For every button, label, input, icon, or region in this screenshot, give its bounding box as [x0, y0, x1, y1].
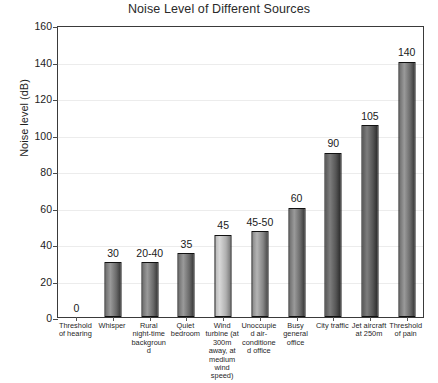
y-axis-tick-label: 0	[22, 313, 52, 324]
bar[interactable]	[361, 125, 378, 317]
bar[interactable]	[215, 235, 232, 317]
bar[interactable]	[288, 208, 305, 318]
bar-slot: 30	[95, 27, 132, 317]
bar-value-label: 140	[398, 47, 416, 58]
bar-value-label: 30	[107, 248, 119, 259]
chart-title: Noise Level of Different Sources	[0, 2, 438, 16]
bar[interactable]	[398, 62, 415, 318]
y-axis-tick-labels: 020406080100120140160	[18, 26, 52, 318]
y-axis-tick-label: 40	[22, 240, 52, 251]
y-axis-tick-label: 80	[22, 167, 52, 178]
bar-value-label: 90	[327, 138, 339, 149]
y-axis-tick-label: 120	[22, 94, 52, 105]
x-axis-category-label: City traffic	[314, 322, 351, 330]
bar-slot: 140	[388, 27, 425, 317]
y-axis-tick-label: 100	[22, 131, 52, 142]
bar-value-label: 0	[73, 303, 79, 314]
bar[interactable]	[178, 253, 195, 317]
x-axis-category-label: Quiet bedroom	[167, 322, 204, 339]
x-axis-category-labels: Threshold of hearingWhisperRural night-t…	[57, 322, 424, 380]
bar-value-label: 35	[181, 239, 193, 250]
bar-value-label: 60	[291, 193, 303, 204]
x-axis-category-label: Jet aircraft at 250m	[351, 322, 388, 339]
bar-slot: 0	[58, 27, 95, 317]
bar-series: 03020-40354545-506090105140	[58, 27, 423, 317]
x-axis-category-label: Busy general office	[277, 322, 314, 347]
bar-value-label: 45-50	[246, 217, 273, 228]
x-axis-category-label: Rural night-time background	[130, 322, 167, 356]
x-axis-category-label: Whisper	[94, 322, 131, 330]
bar[interactable]	[141, 262, 158, 317]
x-axis-category-label: Unoccupied air-conditioned office	[241, 322, 278, 356]
y-axis-tick-label: 140	[22, 58, 52, 69]
bar-chart: Noise Level of Different Sources Noise l…	[0, 0, 438, 383]
x-axis-category-label: Threshold of hearing	[57, 322, 94, 339]
bar-slot: 90	[315, 27, 352, 317]
bar-slot: 35	[168, 27, 205, 317]
y-axis-tick	[53, 319, 58, 320]
bar-value-label: 20-40	[136, 248, 163, 259]
bar-slot: 60	[278, 27, 315, 317]
y-axis-tick-label: 20	[22, 277, 52, 288]
x-axis-category-label: Wind turbine (at 300m away, at medium wi…	[204, 322, 241, 381]
bar[interactable]	[251, 231, 268, 317]
bar[interactable]	[325, 153, 342, 317]
bar-value-label: 105	[361, 111, 379, 122]
plot-area: 03020-40354545-506090105140	[57, 26, 424, 318]
bar-slot: 45	[205, 27, 242, 317]
bar-value-label: 45	[217, 220, 229, 231]
x-axis-category-label: Threshold of pain	[387, 322, 424, 339]
bar-slot: 105	[352, 27, 389, 317]
bar[interactable]	[105, 262, 122, 317]
bar-slot: 20-40	[131, 27, 168, 317]
y-axis-tick-label: 60	[22, 204, 52, 215]
bar-slot: 45-50	[242, 27, 279, 317]
y-axis-tick-label: 160	[22, 21, 52, 32]
